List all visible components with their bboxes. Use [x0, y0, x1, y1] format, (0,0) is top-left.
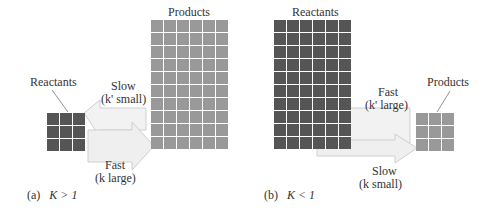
panel-a: Products Reactants Slow (k' small) Fast …	[0, 0, 247, 208]
forward-rate-label: (k small)	[359, 178, 402, 191]
caption-b: (b) K < 1	[264, 188, 315, 203]
caption-expression: K < 1	[287, 188, 315, 202]
forward-rate-label: (k large)	[95, 172, 136, 185]
reverse-rate-label: (k' large)	[365, 99, 408, 112]
reverse-rate-label: (k' small)	[101, 93, 146, 106]
caption-prefix: (b)	[264, 188, 278, 202]
caption-a: (a) K > 1	[27, 188, 77, 203]
panel-b: Reactants Products Fast (k' large) Slow …	[247, 0, 494, 208]
caption-prefix: (a)	[27, 188, 40, 202]
caption-expression: K > 1	[49, 188, 77, 202]
